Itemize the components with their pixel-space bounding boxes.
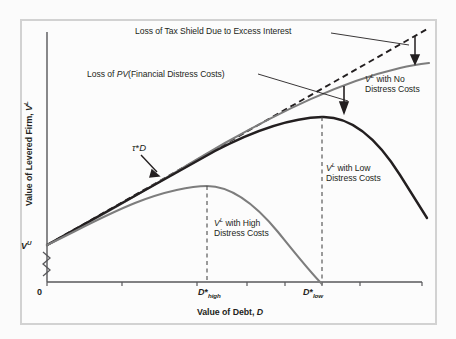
leader-tax-shield xyxy=(331,33,409,45)
x-tick-label-dhigh: D*high xyxy=(198,287,221,301)
arrow-tax-shield xyxy=(411,36,419,64)
arrow-tau-d xyxy=(141,155,159,177)
annotation-tau-d: τ*D xyxy=(132,143,146,154)
leader-pv-loss xyxy=(258,74,348,101)
legend-label-no-distress: VL with NoDistress Costs xyxy=(365,71,420,95)
y-axis-title: Value of Levered Firm, VL xyxy=(21,74,34,234)
y-axis-vu-label: VU xyxy=(21,238,31,252)
x-tick-label-zero: 0 xyxy=(37,287,42,298)
x-tick-label-dlow: D*low xyxy=(303,287,323,301)
annotation-pv-loss: Loss of PV(Financial Distress Costs) xyxy=(87,69,225,80)
legend-label-low-distress: VL with LowDistress Costs xyxy=(326,160,381,184)
arrow-pv-loss xyxy=(340,86,348,113)
curve-high-distress xyxy=(47,186,322,284)
x-axis-title: Value of Debt, D xyxy=(120,307,340,318)
legend-label-high-distress: VL with HighDistress Costs xyxy=(214,215,269,239)
chart-plot-area xyxy=(0,0,456,339)
annotation-tax-shield: Loss of Tax Shield Due to Excess Interes… xyxy=(135,26,291,37)
figure-container: Value of Levered Firm, VL Value of Debt,… xyxy=(0,0,456,339)
